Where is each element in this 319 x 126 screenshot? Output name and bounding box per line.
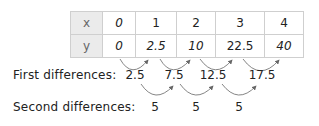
second-difference-value: 5: [192, 100, 200, 114]
first-differences-label: First differences:: [13, 68, 116, 82]
first-difference-value: 17.5: [249, 68, 276, 82]
arrow-icon: [141, 84, 173, 95]
first-difference-value: 7.5: [164, 68, 183, 82]
first-difference-value: 2.5: [125, 68, 144, 82]
arrow-icon: [180, 84, 213, 95]
first-difference-value: 12.5: [200, 68, 227, 82]
second-differences-label: Second differences:: [13, 100, 136, 114]
second-difference-value: 5: [235, 100, 243, 114]
second-difference-value: 5: [151, 100, 159, 114]
arrow-icon: [222, 84, 256, 95]
